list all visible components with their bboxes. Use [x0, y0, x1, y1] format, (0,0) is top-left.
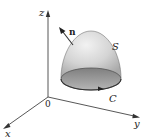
z-axis — [46, 10, 50, 97]
z-axis-arrowhead-icon — [46, 10, 50, 17]
normal-vector-label: n — [69, 27, 76, 37]
surface-diagram: z x y 0 n S C — [0, 0, 144, 140]
origin-label: 0 — [45, 99, 51, 109]
z-axis-label: z — [38, 7, 45, 18]
surface-label: S — [112, 41, 119, 52]
normal-arrowhead-icon — [59, 27, 66, 34]
x-axis — [3, 97, 48, 129]
surface-s — [61, 31, 121, 91]
y-axis — [48, 97, 140, 118]
curve-label: C — [109, 93, 117, 104]
y-axis-label: y — [133, 118, 140, 129]
x-axis-label: x — [5, 128, 11, 139]
